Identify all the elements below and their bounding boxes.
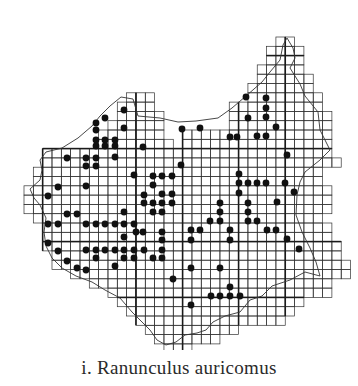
grid-cell	[304, 139, 313, 148]
figure-caption: i. Ranunculus auricomus	[0, 357, 358, 379]
grid-cell	[295, 260, 304, 269]
record-dot	[121, 247, 128, 254]
grid-cell	[285, 242, 294, 251]
record-dot	[121, 255, 128, 262]
grid-cell	[239, 139, 248, 148]
grid-cell	[229, 139, 238, 148]
record-dot	[150, 173, 157, 180]
grid-cell	[192, 149, 201, 158]
grid-cell	[276, 37, 285, 46]
grid-cell	[248, 316, 257, 325]
grid-cell	[239, 223, 248, 232]
record-dot	[237, 293, 244, 300]
grid-cell	[145, 232, 154, 241]
record-dot	[263, 114, 270, 121]
grid-cell	[173, 344, 182, 350]
grid-cell	[211, 149, 220, 158]
record-dot	[178, 162, 185, 169]
record-dot	[112, 154, 119, 161]
grid-cell	[313, 242, 322, 251]
grid-cell	[304, 84, 313, 93]
grid-cell	[304, 288, 313, 297]
grid-cell	[89, 260, 98, 269]
record-dot	[188, 302, 195, 309]
grid-cell	[145, 307, 154, 316]
grid-cell	[99, 260, 108, 269]
record-dot	[112, 247, 119, 254]
grid-cell	[192, 158, 201, 167]
grid-cell	[248, 232, 257, 241]
grid-cell	[220, 251, 229, 260]
record-dot	[245, 209, 252, 216]
record-dot	[169, 200, 176, 207]
grid-cell	[117, 130, 126, 139]
grid-cell	[201, 167, 210, 176]
grid-cell	[285, 251, 294, 260]
grid-cell	[108, 186, 117, 195]
grid-cell	[61, 223, 70, 232]
grid-cell	[248, 251, 257, 260]
grid-cell	[145, 149, 154, 158]
grid-cell	[145, 270, 154, 279]
grid-cell	[127, 139, 136, 148]
grid-cell	[192, 307, 201, 316]
grid-cell	[220, 149, 229, 158]
grid-cell	[192, 177, 201, 186]
grid-cell	[173, 307, 182, 316]
grid-cell	[117, 177, 126, 186]
grid-cell	[239, 102, 248, 111]
grid-cell	[304, 177, 313, 186]
grid-cell	[295, 102, 304, 111]
grid-cell	[211, 223, 220, 232]
grid-cell	[117, 139, 126, 148]
grid-cell	[304, 223, 313, 232]
grid-cell	[285, 297, 294, 306]
record-dot	[93, 247, 100, 254]
record-dot	[197, 125, 204, 132]
grid-cell	[192, 195, 201, 204]
grid-cell	[183, 344, 192, 350]
grid-cell	[313, 288, 322, 297]
record-dot	[83, 247, 90, 254]
grid-cell	[136, 102, 145, 111]
grid-cell	[295, 56, 304, 65]
grid-cell	[313, 93, 322, 102]
grid-cell	[145, 158, 154, 167]
grid-cell	[33, 214, 42, 223]
grid-cell	[267, 139, 276, 148]
record-dot	[236, 171, 243, 178]
grid-cell	[127, 297, 136, 306]
grid-cell	[239, 251, 248, 260]
grid-cell	[304, 214, 313, 223]
grid-cell	[192, 242, 201, 251]
grid-cell	[323, 121, 332, 130]
grid-cell	[145, 288, 154, 297]
record-dot	[263, 180, 270, 187]
grid-cell	[80, 195, 89, 204]
grid-cell	[239, 260, 248, 269]
grid-cell	[239, 158, 248, 167]
grid-cell	[71, 223, 80, 232]
grid-cell	[276, 288, 285, 297]
grid-cell	[183, 149, 192, 158]
grid-cell	[52, 195, 61, 204]
grid-cell	[295, 121, 304, 130]
grid-cell	[145, 223, 154, 232]
grid-cell	[99, 149, 108, 158]
grid-cell	[173, 204, 182, 213]
grid-cell	[285, 93, 294, 102]
grid-cell	[285, 56, 294, 65]
grid-cell	[108, 195, 117, 204]
grid-cell	[192, 214, 201, 223]
grid-cell	[257, 65, 266, 74]
record-dot	[93, 137, 100, 144]
grid-cell	[285, 223, 294, 232]
record-dot	[121, 125, 128, 132]
grid-cell	[211, 307, 220, 316]
grid-cell	[276, 186, 285, 195]
grid-cell	[304, 242, 313, 251]
record-dot	[93, 255, 100, 262]
grid-cell	[192, 251, 201, 260]
grid-cell	[267, 46, 276, 55]
grid-cell	[276, 242, 285, 251]
